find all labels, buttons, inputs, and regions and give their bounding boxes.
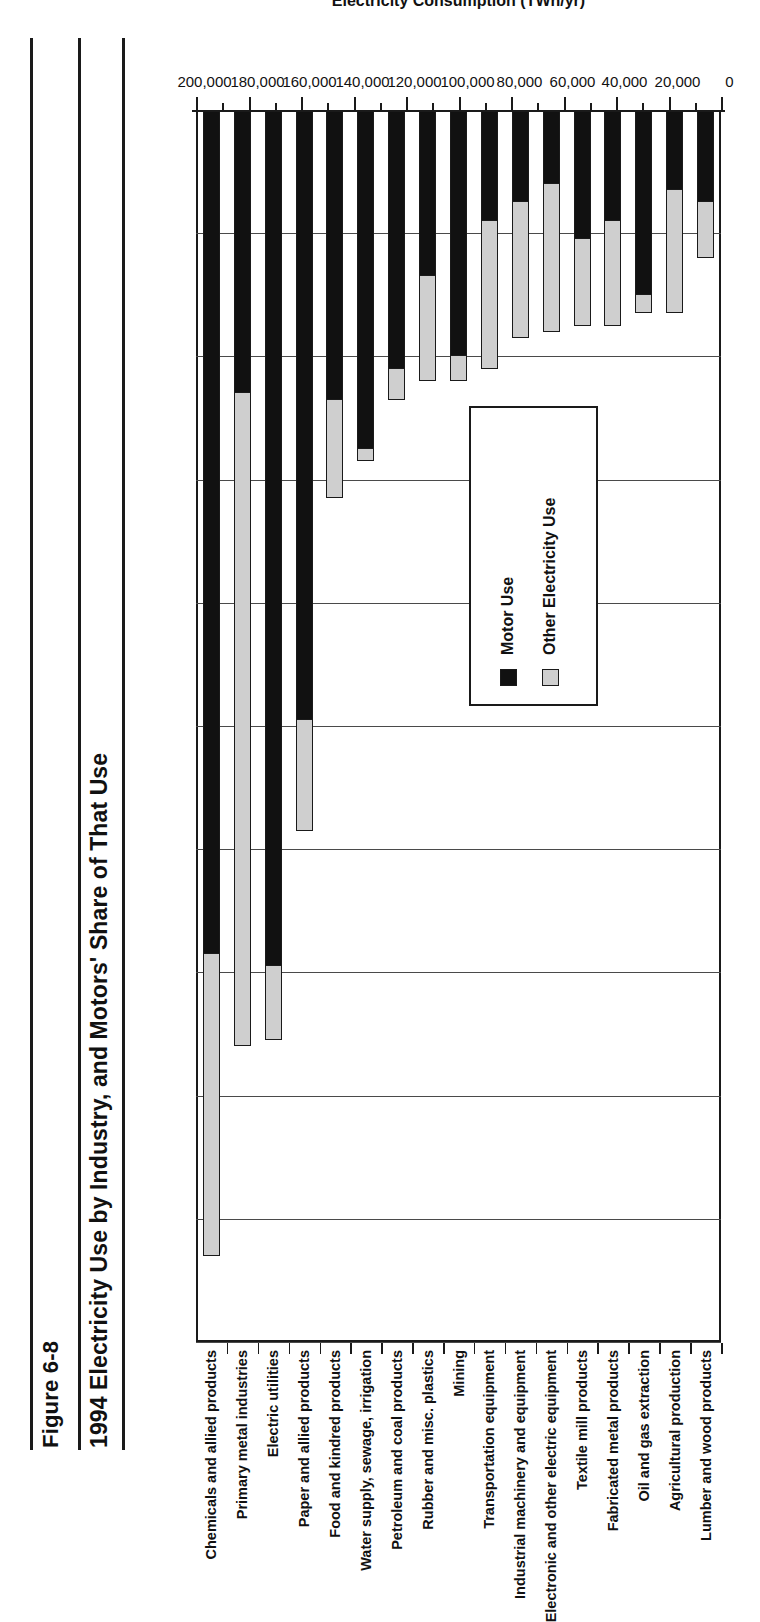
category-tick xyxy=(289,1343,291,1354)
bar-row xyxy=(388,110,405,400)
bar-segment-other-electricity-use xyxy=(296,720,313,831)
bar-row xyxy=(481,110,498,369)
category-tick xyxy=(536,1343,538,1354)
axis-tick-label: 20,000 xyxy=(654,73,700,90)
bar-row xyxy=(419,110,436,381)
bar-row xyxy=(203,110,220,1256)
category-tick xyxy=(474,1343,476,1354)
category-label: Petroleum and coal products xyxy=(389,1350,405,1550)
header-rule-top xyxy=(30,38,33,1450)
axis-tick-label: 80,000 xyxy=(497,73,543,90)
gridline xyxy=(196,1342,721,1343)
bar-segment-motor-use xyxy=(419,110,436,276)
bar-segment-other-electricity-use xyxy=(388,369,405,400)
category-tick xyxy=(721,1343,723,1354)
bar-row xyxy=(543,110,560,332)
legend-label-other-electricity-use: Other Electricity Use xyxy=(541,498,559,655)
bar-segment-other-electricity-use xyxy=(543,184,560,332)
bar-segment-motor-use xyxy=(296,110,313,720)
category-label: Industrial machinery and equipment xyxy=(512,1350,528,1599)
value-axis-title: Electricity Consumption (TWh/yr) xyxy=(192,0,725,16)
bar-row xyxy=(604,110,621,326)
bar-segment-motor-use xyxy=(203,110,220,954)
category-label: Electric utilities xyxy=(265,1350,281,1457)
category-tick xyxy=(412,1343,414,1354)
bar-row xyxy=(296,110,313,831)
bar-segment-motor-use xyxy=(574,110,591,239)
bar-row xyxy=(697,110,714,258)
category-tick xyxy=(690,1343,692,1354)
axis-tick-label: 0 xyxy=(725,73,733,90)
category-label: Mining xyxy=(451,1350,467,1397)
category-label: Textile mill products xyxy=(574,1350,590,1490)
bar-segment-other-electricity-use xyxy=(635,295,652,313)
category-tick xyxy=(258,1343,260,1354)
legend-item-other-electricity-use: Other Electricity Use xyxy=(529,426,571,686)
category-label: Oil and gas extraction xyxy=(636,1350,652,1502)
bar-segment-other-electricity-use xyxy=(265,966,282,1040)
bar-row xyxy=(234,110,251,1046)
bar-segment-motor-use xyxy=(697,110,714,202)
bar-segment-motor-use xyxy=(481,110,498,221)
category-label: Rubber and misc. plastics xyxy=(420,1350,436,1530)
bar-row xyxy=(512,110,529,338)
value-axis-line xyxy=(192,110,725,112)
plot-area: 020,00040,00060,00080,000100,000120,0001… xyxy=(196,110,721,1342)
bar-segment-motor-use xyxy=(357,110,374,449)
category-tick xyxy=(628,1343,630,1354)
bar-segment-motor-use xyxy=(234,110,251,393)
category-label: Transportation equipment xyxy=(481,1350,497,1529)
legend-item-motor-use: Motor Use xyxy=(487,426,529,686)
gray-square-icon xyxy=(542,669,559,686)
bar-segment-motor-use xyxy=(604,110,621,221)
bar-segment-other-electricity-use xyxy=(481,221,498,369)
value-axis-tick-labels: 020,00040,00060,00080,000100,000120,0001… xyxy=(192,10,725,110)
figure-number: Figure 6-8 xyxy=(38,1341,64,1448)
axis-tick-label: 180,000 xyxy=(230,73,284,90)
bar-row xyxy=(450,110,467,381)
category-label: Paper and allied products xyxy=(296,1350,312,1527)
bar-segment-other-electricity-use xyxy=(203,954,220,1256)
category-axis-ticks xyxy=(196,1342,721,1354)
category-label: Lumber and wood products xyxy=(698,1350,714,1541)
bar-series-container xyxy=(196,110,721,1342)
bar-row xyxy=(666,110,683,313)
category-tick xyxy=(567,1343,569,1354)
category-label: Chemicals and allied products xyxy=(203,1350,219,1560)
category-tick xyxy=(505,1343,507,1354)
legend-label-motor-use: Motor Use xyxy=(499,577,517,655)
bar-row xyxy=(635,110,652,313)
bar-row xyxy=(265,110,282,1040)
figure-title: 1994 Electricity Use by Industry, and Mo… xyxy=(86,753,113,1448)
chart-legend: Motor Use Other Electricity Use xyxy=(469,406,598,706)
category-tick xyxy=(227,1343,229,1354)
axis-tick-label: 120,000 xyxy=(387,73,441,90)
axis-tick-label: 200,000 xyxy=(177,73,231,90)
category-label: Water supply, sewage, irrigation xyxy=(358,1350,374,1571)
axis-tick-label: 140,000 xyxy=(335,73,389,90)
axis-tick-label: 60,000 xyxy=(549,73,595,90)
bar-segment-other-electricity-use xyxy=(326,400,343,499)
category-tick xyxy=(350,1343,352,1354)
bar-segment-other-electricity-use xyxy=(512,202,529,338)
bar-segment-motor-use xyxy=(450,110,467,356)
bar-segment-other-electricity-use xyxy=(604,221,621,326)
bar-row xyxy=(574,110,591,326)
bar-segment-motor-use xyxy=(635,110,652,295)
category-tick xyxy=(381,1343,383,1354)
axis-tick-label: 40,000 xyxy=(602,73,648,90)
bar-segment-motor-use xyxy=(388,110,405,369)
bar-segment-other-electricity-use xyxy=(574,239,591,325)
bar-segment-motor-use xyxy=(512,110,529,202)
category-label: Primary metal industries xyxy=(234,1350,250,1519)
bar-segment-motor-use xyxy=(265,110,282,966)
bar-segment-other-electricity-use xyxy=(450,356,467,381)
category-label: Agricultural production xyxy=(667,1350,683,1511)
axis-tick-label: 100,000 xyxy=(440,73,494,90)
bar-segment-other-electricity-use xyxy=(697,202,714,257)
category-label: Fabricated metal products xyxy=(605,1350,621,1531)
black-square-icon xyxy=(500,669,517,686)
bar-segment-motor-use xyxy=(326,110,343,400)
bar-segment-other-electricity-use xyxy=(419,276,436,381)
